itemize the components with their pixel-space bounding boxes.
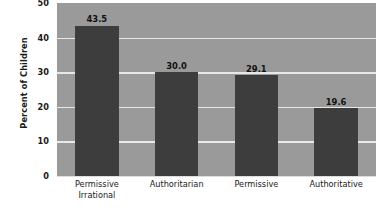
bars-layer	[57, 3, 376, 176]
y-tick-label: 10	[3, 137, 49, 145]
x-axis-label: PermissiveIrrational	[57, 179, 137, 200]
x-axis-label-line: Permissive	[57, 179, 137, 190]
y-tick-label: 30	[3, 68, 49, 76]
x-axis-label: Authoritarian	[137, 179, 217, 190]
x-axis-label-line: Authoritative	[296, 179, 376, 190]
y-tick-label: 40	[3, 33, 49, 41]
x-axis-label: Permissive	[217, 179, 297, 190]
x-axis-label-line: Authoritarian	[137, 179, 217, 190]
y-tick-label: 0	[3, 172, 49, 180]
bar-chart: Percent of Children 50 40 30 20 10 0 43.…	[0, 0, 381, 215]
bar	[314, 108, 358, 176]
bar	[155, 72, 199, 176]
y-tick-label: 50	[3, 0, 49, 7]
plot-area	[57, 3, 376, 176]
bar	[235, 75, 279, 176]
x-axis-line	[57, 176, 376, 177]
x-axis-label: Authoritative	[296, 179, 376, 190]
y-tick-label: 20	[3, 103, 49, 111]
x-axis-label-line: Permissive	[217, 179, 297, 190]
y-axis-ticks: 50 40 30 20 10 0	[0, 0, 53, 180]
bar	[75, 26, 119, 177]
x-axis-label-line: Irrational	[57, 190, 137, 201]
x-axis-category-labels: PermissiveIrrationalAuthoritarianPermiss…	[57, 179, 376, 213]
